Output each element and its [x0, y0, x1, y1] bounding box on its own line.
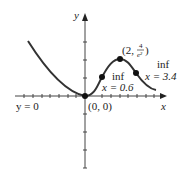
inflection-1-label-bottom: x = 0.6 — [101, 81, 134, 93]
chart-canvas: y x y = 0 (0, 0) (2, 4 e² ) inf x = 0.6 … — [0, 0, 188, 180]
origin-label: (0, 0) — [88, 100, 112, 113]
max-label-denominator: e² — [137, 51, 143, 59]
function-curve — [28, 41, 156, 96]
inflection-point-2 — [133, 70, 139, 76]
max-label-prefix: (2, — [122, 44, 134, 57]
max-point — [117, 56, 123, 62]
max-label-suffix: ) — [145, 44, 149, 57]
x-axis-label: x — [160, 100, 166, 112]
inflection-2-label-bottom: x = 3.4 — [144, 70, 177, 82]
max-label-numerator: 4 — [139, 42, 143, 50]
origin-point — [82, 93, 88, 99]
y-axis — [82, 13, 88, 168]
asymptote-label: y = 0 — [16, 100, 39, 112]
inflection-point-1 — [99, 74, 105, 80]
y-axis-label: y — [73, 9, 79, 21]
inflection-2-label-top: inf — [157, 58, 170, 70]
